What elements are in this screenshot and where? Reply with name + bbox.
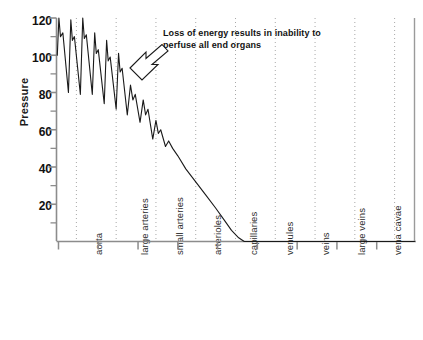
pressure-curve xyxy=(57,18,414,242)
plot-area xyxy=(0,0,423,340)
gridlines xyxy=(76,18,394,241)
pressure-chart-figure: Pressure 120 100 80 60 40 20 Loss of ene… xyxy=(0,0,423,340)
x-axis-ticks xyxy=(58,242,376,250)
y-axis-ticks xyxy=(49,18,57,223)
annotation-arrow-icon xyxy=(130,45,168,81)
